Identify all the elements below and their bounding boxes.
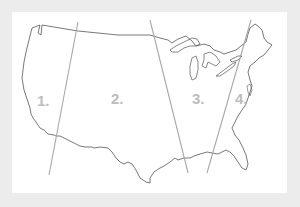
region-label-1: 1. <box>37 93 50 108</box>
region-label-3: 3. <box>192 91 205 106</box>
lake-erie <box>216 62 236 76</box>
region-label-2: 2. <box>111 91 124 106</box>
region-label-4: 4. <box>235 91 248 106</box>
lake-huron <box>202 52 220 68</box>
divider-line-1 <box>49 22 78 175</box>
lake-michigan <box>190 56 198 80</box>
